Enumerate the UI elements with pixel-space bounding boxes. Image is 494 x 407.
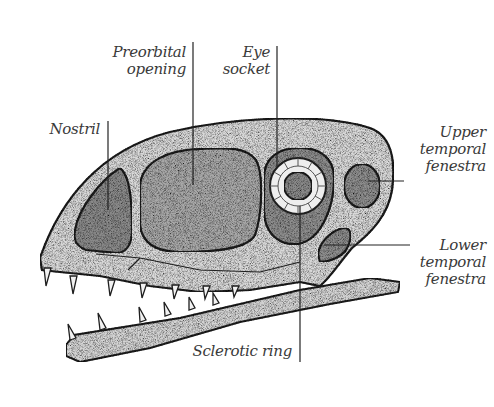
- label-preorbital-opening: Preorbital opening: [90, 44, 186, 78]
- preorbital-opening: [140, 148, 261, 252]
- pupil: [284, 172, 312, 200]
- label-lower-temporal-fenestra: Lower temporal fenestra: [396, 237, 486, 288]
- upper-temporal-fenestra: [344, 164, 380, 208]
- nostril-opening: [74, 168, 132, 253]
- skull-diagram: Nostril Preorbital opening Eye socket Up…: [0, 0, 494, 407]
- label-nostril: Nostril: [28, 121, 100, 138]
- label-sclerotic-ring: Sclerotic ring: [170, 343, 292, 360]
- label-eye-socket: Eye socket: [220, 44, 270, 78]
- label-upper-temporal-fenestra: Upper temporal fenestra: [396, 124, 486, 175]
